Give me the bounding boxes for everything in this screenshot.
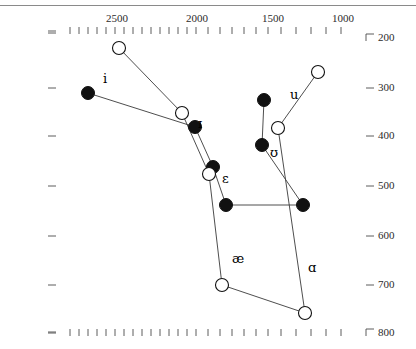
data-point-filled-æ — [220, 199, 233, 212]
axis-corner-top-right — [366, 34, 374, 41]
series-path-open — [119, 48, 318, 313]
vowel-label-ɛ: ɛ — [222, 171, 229, 186]
y-axis-tick-label: 200 — [378, 31, 395, 43]
vowel-label-i: i — [103, 71, 107, 86]
data-point-open-ɪ — [176, 107, 189, 120]
axis-corner-bottom-right — [366, 329, 374, 336]
y-axis-tick-label: 500 — [378, 179, 395, 191]
vowel-label-æ: æ — [232, 251, 244, 266]
vowel-formant-chart: 2500200015001000200300400500600700800iɪɛ… — [0, 0, 416, 349]
y-axis-tick-label: 700 — [378, 278, 395, 290]
x-axis-tick-label: 2000 — [186, 12, 208, 24]
x-axis-tick-label: 1000 — [332, 12, 354, 24]
vowel-label-ɪ: ɪ — [198, 116, 202, 131]
chart-canvas — [0, 0, 416, 349]
y-axis-tick-label: 300 — [378, 81, 395, 93]
data-point-open-ʊ — [272, 122, 285, 135]
data-point-open-i — [113, 42, 126, 55]
vowel-label-ʊ: ʊ — [270, 145, 278, 160]
data-point-open-ɑ — [299, 307, 312, 320]
y-axis-tick-label: 400 — [378, 129, 395, 141]
y-axis-tick-label: 600 — [378, 229, 395, 241]
data-point-filled-ʊ — [256, 139, 269, 152]
data-point-filled-i — [82, 87, 95, 100]
data-point-filled-ɑ — [297, 199, 310, 212]
data-point-open-æ — [216, 279, 229, 292]
data-point-open-u — [312, 66, 325, 79]
vowel-label-ɑ: ɑ — [308, 260, 316, 275]
data-point-filled-u — [258, 94, 271, 107]
y-axis-tick-label: 800 — [378, 326, 395, 338]
vowel-label-u: u — [290, 87, 298, 102]
x-axis-tick-label: 2500 — [106, 12, 128, 24]
x-axis-tick-label: 1500 — [262, 12, 284, 24]
data-point-open-ɛ — [203, 168, 216, 181]
